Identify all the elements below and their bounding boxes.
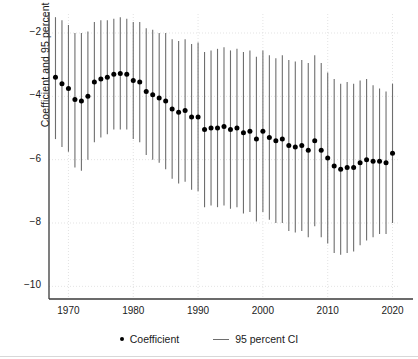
coefficient-point xyxy=(299,143,304,148)
coefficient-point xyxy=(170,107,175,112)
coefficient-point xyxy=(358,160,363,165)
coefficient-point xyxy=(66,86,71,91)
coefficient-point xyxy=(241,130,246,135)
coefficient-point xyxy=(377,159,382,164)
x-tick-label: 2000 xyxy=(238,305,288,316)
x-tick-label: 1970 xyxy=(43,305,93,316)
coefficient-point xyxy=(79,99,84,104)
chart-legend: Coefficient 95 percent CI xyxy=(0,333,418,345)
coefficient-point xyxy=(312,138,317,143)
coefficient-point xyxy=(234,126,239,131)
coefficient-point xyxy=(325,156,330,161)
y-tick-label: −10 xyxy=(8,279,41,290)
coefficient-point xyxy=(189,114,194,119)
coefficient-point xyxy=(118,71,123,76)
coefficient-point xyxy=(228,127,233,132)
coefficient-point xyxy=(163,99,168,104)
coefficient-point xyxy=(247,129,252,134)
coefficient-point xyxy=(345,165,350,170)
y-tick-label: −4 xyxy=(8,89,41,100)
coefficient-point xyxy=(267,135,272,140)
coefficient-point xyxy=(293,145,298,150)
coefficient-point xyxy=(176,110,181,115)
coefficient-point xyxy=(150,92,155,97)
coefficient-point xyxy=(131,78,136,83)
coefficient-point xyxy=(364,157,369,162)
y-tick-label: −8 xyxy=(8,216,41,227)
coefficient-point xyxy=(98,76,103,81)
coefficient-marker-icon xyxy=(120,337,124,341)
coefficient-point xyxy=(332,164,337,169)
coefficient-point xyxy=(105,75,110,80)
coefficient-point xyxy=(144,89,149,94)
coefficient-point xyxy=(371,159,376,164)
legend-item-coefficient: Coefficient xyxy=(120,333,179,345)
x-tick-label: 1990 xyxy=(173,305,223,316)
coefficient-point xyxy=(157,95,162,100)
coefficient-point xyxy=(85,94,90,99)
coefficient-point xyxy=(196,114,201,119)
x-tick-label: 2010 xyxy=(303,305,353,316)
coefficient-point xyxy=(111,72,116,77)
x-tick-label: 1980 xyxy=(108,305,158,316)
coefficient-point xyxy=(183,108,188,113)
coefficient-point xyxy=(72,97,77,102)
coefficient-point xyxy=(384,160,389,165)
coefficient-point xyxy=(319,148,324,153)
coefficient-point xyxy=(260,129,265,134)
coefficient-point xyxy=(59,81,64,86)
coefficient-point xyxy=(202,127,207,132)
ci-line-icon xyxy=(213,339,229,340)
coefficient-point xyxy=(92,80,97,85)
coefficient-plot-figure: Coefficient and 95 percent CI Coefficien… xyxy=(0,0,418,359)
coefficient-point xyxy=(390,151,395,156)
y-tick-label: −2 xyxy=(8,26,41,37)
legend-label-coefficient: Coefficient xyxy=(130,333,179,345)
coefficient-point xyxy=(306,148,311,153)
coefficient-point xyxy=(137,80,142,85)
coefficient-point xyxy=(338,167,343,172)
legend-item-ci: 95 percent CI xyxy=(213,333,298,345)
coefficient-point xyxy=(215,126,220,131)
legend-label-ci: 95 percent CI xyxy=(235,333,298,345)
coefficient-point xyxy=(286,143,291,148)
coefficient-point xyxy=(53,75,58,80)
coefficient-point xyxy=(351,165,356,170)
coefficient-point xyxy=(222,124,227,129)
coefficient-point xyxy=(254,137,259,142)
x-tick-label: 2020 xyxy=(368,305,418,316)
coefficient-point xyxy=(273,138,278,143)
coefficient-point xyxy=(209,126,214,131)
coefficient-point xyxy=(280,137,285,142)
coefficient-point xyxy=(124,72,129,77)
bottom-divider xyxy=(0,356,418,357)
y-tick-label: −6 xyxy=(8,153,41,164)
